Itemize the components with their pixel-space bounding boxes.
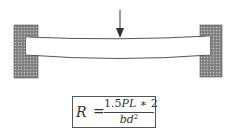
point-load-arrow-icon — [116, 10, 124, 38]
left-embed-cover — [26, 38, 30, 55]
numerator-coefficient: 1.5 — [104, 97, 122, 110]
formula-fraction: 1.5PL ∗ 2 bd2 — [104, 97, 154, 127]
beam-diagram — [0, 0, 233, 82]
denominator-exponent: 2 — [134, 113, 138, 121]
formula-numerator: 1.5PL ∗ 2 — [104, 98, 154, 110]
formula-box: R = 1.5PL ∗ 2 bd2 — [72, 96, 156, 128]
right-embed-cover — [206, 37, 210, 55]
numerator-variables: PL — [122, 97, 137, 110]
formula-lhs: R — [76, 105, 87, 119]
formula-denominator: bd2 — [104, 114, 154, 126]
denominator-variables: bd — [120, 113, 134, 126]
formula-equals-sign: = — [93, 104, 105, 118]
deflected-beam — [26, 36, 210, 59]
numerator-operator: ∗ 2 — [136, 97, 157, 110]
